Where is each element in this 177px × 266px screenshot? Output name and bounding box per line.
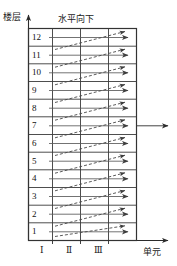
diagram-canvas: 楼层 水平向下 单元 xyxy=(0,0,177,266)
floor-label: 6 xyxy=(32,138,52,148)
floor-label: 4 xyxy=(32,173,52,183)
floor-label: 1 xyxy=(32,226,52,236)
diagram-svg xyxy=(0,0,177,266)
unit-tick-label-1: Ⅰ xyxy=(40,245,44,255)
dashed-return-paths xyxy=(55,32,125,237)
floor-label: 3 xyxy=(32,191,52,201)
floor-label: 8 xyxy=(32,103,52,113)
floor-label: 5 xyxy=(32,156,52,166)
floor-label: 7 xyxy=(32,120,52,130)
floor-label: 10 xyxy=(32,67,52,77)
unit-tick-label-3: Ⅲ xyxy=(94,245,103,255)
floor-label: 11 xyxy=(32,50,52,60)
unit-tick-label-2: Ⅱ xyxy=(66,245,72,255)
floor-label: 12 xyxy=(32,32,52,42)
floor-label: 2 xyxy=(32,209,52,219)
floor-label: 9 xyxy=(32,85,52,95)
